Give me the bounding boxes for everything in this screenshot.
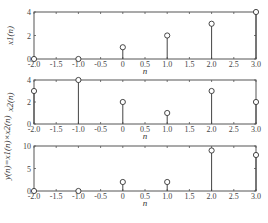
axes-box (34, 12, 256, 59)
x-tick-label: 2.5 (229, 125, 239, 134)
y-tick-label: 0 (27, 55, 31, 64)
stem-marker (120, 99, 125, 104)
y-tick-label: 0 (27, 187, 31, 196)
stem-marker (31, 188, 36, 193)
y-tick-label: 0 (27, 120, 31, 129)
x-tick-label: 1.0 (162, 125, 172, 134)
stem-marker (120, 179, 125, 184)
y-axis-label: y(n)=x1(n)×x2(n) (2, 115, 12, 181)
stem-plot-2: -2.0-1.5-1.0-0.500.51.01.52.02.53.0024nx… (5, 76, 261, 141)
axes-box (34, 80, 256, 124)
x-tick-label: 3.0 (251, 60, 261, 69)
stem-plot-1: -2.0-1.5-1.0-0.500.51.01.52.02.53.0024nx… (5, 8, 261, 76)
stem-marker (76, 188, 81, 193)
x-tick-label: 0 (121, 125, 125, 134)
stem-marker (165, 33, 170, 38)
x-tick-label: 0 (121, 60, 125, 69)
y-tick-label: 10 (23, 142, 31, 151)
stem-marker (253, 152, 258, 157)
x-tick-label: 1.5 (184, 192, 194, 201)
x-tick-label: -0.5 (94, 192, 107, 201)
stem-marker (165, 110, 170, 115)
x-tick-label: 1.0 (162, 192, 172, 201)
x-tick-label: -1.0 (72, 125, 85, 134)
x-axis-label: n (143, 198, 148, 208)
stem-marker (76, 56, 81, 61)
x-tick-label: 2.0 (207, 60, 217, 69)
x-tick-label: 3.0 (251, 125, 261, 134)
x-tick-label: 2.5 (229, 192, 239, 201)
stem-marker (31, 88, 36, 93)
x-tick-label: -1.5 (50, 125, 63, 134)
y-axis-label: x1(n) (5, 26, 15, 46)
y-tick-label: 2 (27, 98, 31, 107)
x-tick-label: 1.5 (184, 125, 194, 134)
x-tick-label: -1.5 (50, 192, 63, 201)
y-tick-label: 5 (27, 165, 31, 174)
x-axis-label: n (143, 131, 148, 141)
stem-marker (209, 148, 214, 153)
axes-box (34, 146, 256, 191)
x-tick-label: 1.0 (162, 60, 172, 69)
y-axis-label: x2(n) (5, 93, 15, 113)
stem-marker (31, 56, 36, 61)
x-tick-label: -0.5 (94, 60, 107, 69)
stem-marker (209, 21, 214, 26)
y-tick-label: 2 (27, 32, 31, 41)
x-tick-label: 1.5 (184, 60, 194, 69)
x-tick-label: 2.0 (207, 125, 217, 134)
stem-plots-figure: -2.0-1.5-1.0-0.500.51.01.52.02.53.0024nx… (0, 0, 268, 223)
y-tick-label: 4 (27, 76, 31, 85)
x-tick-label: -0.5 (94, 125, 107, 134)
stem-plot-3: -2.0-1.5-1.0-0.500.51.01.52.02.53.00510n… (2, 115, 261, 208)
stem-marker (253, 9, 258, 14)
x-tick-label: 2.5 (229, 60, 239, 69)
stem-marker (253, 99, 258, 104)
x-tick-label: 2.0 (207, 192, 217, 201)
stem-marker (165, 179, 170, 184)
x-tick-label: 3.0 (251, 192, 261, 201)
stem-marker (120, 45, 125, 50)
x-axis-label: n (143, 66, 148, 76)
x-tick-label: 0 (121, 192, 125, 201)
stem-marker (76, 77, 81, 82)
stem-marker (209, 88, 214, 93)
y-tick-label: 4 (27, 8, 31, 17)
x-tick-label: -1.5 (50, 60, 63, 69)
